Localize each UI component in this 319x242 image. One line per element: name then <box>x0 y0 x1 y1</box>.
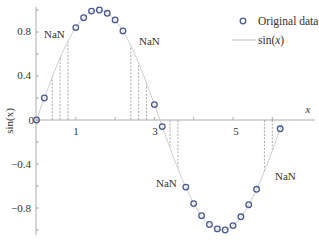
legend-label-original-data: Original data <box>258 15 318 28</box>
x-axis-label: x <box>305 103 311 115</box>
nan-annotation-2: NaN <box>139 35 160 47</box>
y-tick-label-neg0.4: −0.4 <box>11 158 31 170</box>
nan-dashed-lines <box>52 41 272 171</box>
legend: Original data sin(x) <box>232 15 318 47</box>
x-ticks <box>76 117 272 120</box>
nan-annotation-3: NaN <box>156 177 177 189</box>
nan-annotation-4: NaN <box>275 170 296 182</box>
y-axis-label: sin(x) <box>3 108 16 134</box>
y-tick-label-0.4: 0.4 <box>17 69 31 81</box>
legend-marker-icon <box>240 18 246 24</box>
y-tick-label-0.8: 0.8 <box>17 25 31 37</box>
x-tick-label-5: 5 <box>233 125 239 137</box>
y-ticks <box>36 10 39 230</box>
x-tick-label-3: 3 <box>152 125 158 137</box>
sine-nan-chart: 0.8 0.4 0 −0.4 −0.8 1 3 5 x sin(x) NaN N… <box>0 0 319 242</box>
legend-label-sin: sin(x) <box>258 34 284 47</box>
x-tick-label-1: 1 <box>73 125 79 137</box>
y-tick-label-neg0.8: −0.8 <box>11 202 31 214</box>
nan-annotation-1: NaN <box>44 28 65 40</box>
